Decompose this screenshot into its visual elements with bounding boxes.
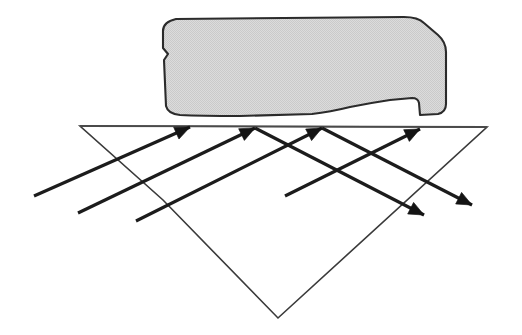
diagram-canvas <box>0 0 522 335</box>
smooth-reflecting-surface-line <box>80 126 487 127</box>
reflection-diagram-figure <box>0 0 522 335</box>
